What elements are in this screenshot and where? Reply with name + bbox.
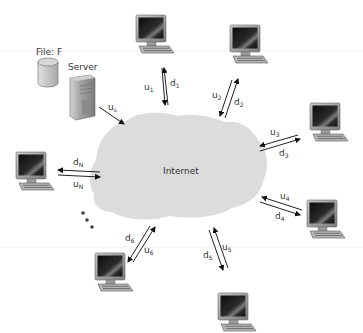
- server-upload-label: us: [108, 102, 117, 113]
- peer-4-download-label: d4: [275, 211, 285, 222]
- peer-n-computer: [16, 152, 54, 190]
- peer-2-upload-arrow: [220, 80, 232, 116]
- peer-2-download-label: d2: [234, 97, 244, 108]
- internet-label: Internet: [163, 166, 199, 176]
- peer-5-download-arrow: [209, 230, 223, 270]
- peer-6-download-arrow: [128, 226, 150, 262]
- peer-4-computer: [307, 200, 345, 238]
- file-label: File: F: [36, 47, 62, 57]
- peer-5-upload-label: u5: [222, 242, 232, 253]
- peer-1-upload-label: u1: [144, 82, 154, 93]
- peer-2-computer: [230, 25, 268, 63]
- peer-6-download-label: d6: [125, 233, 135, 244]
- peer-2-upload-label: u2: [212, 90, 222, 101]
- file-disk-icon: [38, 58, 58, 87]
- peer-n-download-label: dN: [73, 157, 83, 168]
- server-label: Server: [68, 62, 98, 72]
- peer-3-upload-label: u3: [270, 127, 280, 138]
- server-icon: [70, 75, 95, 120]
- peer-n-upload-label: uN: [73, 179, 83, 190]
- peer-5-download-label: d5: [203, 250, 213, 261]
- peer-3-download-label: d3: [279, 148, 289, 159]
- peer-1-computer: [136, 15, 174, 53]
- peer-6-computer: [95, 253, 133, 291]
- peer-5-computer: [218, 293, 256, 331]
- more-peers-ellipsis: [81, 211, 94, 229]
- peer-4-upload-label: u4: [280, 191, 290, 202]
- peer-3-computer: [310, 103, 348, 141]
- peer-1-download-label: d1: [170, 78, 180, 89]
- p2p-diagram: Internet File: F Server us u1 d1 u2 d2 u…: [0, 0, 363, 333]
